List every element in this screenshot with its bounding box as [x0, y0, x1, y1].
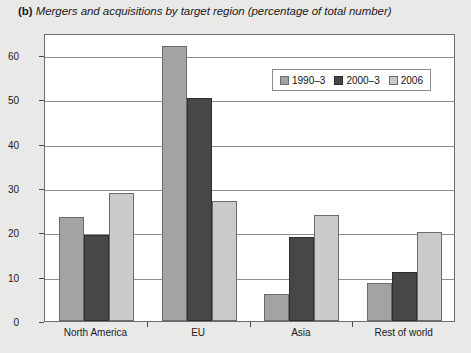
x-tick-label: Asia: [291, 327, 310, 338]
y-tick-label: 60: [0, 51, 19, 62]
x-tick-mark: [250, 322, 251, 327]
legend-swatch-icon: [389, 76, 398, 85]
x-tick-mark: [147, 322, 148, 327]
legend: 1990–32000–32006: [272, 69, 431, 91]
bar: [84, 235, 109, 321]
legend-swatch-icon: [334, 76, 343, 85]
legend-label: 1990–3: [292, 75, 325, 86]
bar: [289, 237, 314, 321]
bar: [187, 98, 212, 321]
x-tick-label: Rest of world: [374, 327, 432, 338]
bar: [212, 201, 237, 321]
bar: [109, 193, 134, 321]
legend-item[interactable]: 2000–3: [334, 75, 379, 86]
y-tick-label: 10: [0, 272, 19, 283]
legend-item[interactable]: 1990–3: [280, 75, 325, 86]
bar: [264, 294, 289, 321]
page-title: (b) Mergers and acquisitions by target r…: [18, 5, 391, 17]
y-tick-label: 40: [0, 139, 19, 150]
legend-label: 2006: [401, 75, 423, 86]
y-tick-label: 0: [0, 317, 19, 328]
bar: [59, 217, 84, 321]
title-text: Mergers and acquisitions by target regio…: [36, 5, 392, 17]
y-tick-mark: [39, 322, 44, 323]
legend-item[interactable]: 2006: [389, 75, 423, 86]
legend-label: 2000–3: [346, 75, 379, 86]
panel-label: (b): [18, 5, 33, 17]
x-tick-label: EU: [191, 327, 205, 338]
y-tick-label: 50: [0, 95, 19, 106]
bar: [392, 272, 417, 321]
bar: [314, 215, 339, 321]
bar: [417, 232, 442, 321]
x-tick-mark: [352, 322, 353, 327]
y-tick-label: 30: [0, 184, 19, 195]
bar: [162, 46, 187, 321]
bar: [367, 283, 392, 321]
x-tick-label: North America: [64, 327, 127, 338]
legend-swatch-icon: [280, 76, 289, 85]
y-tick-label: 20: [0, 228, 19, 239]
